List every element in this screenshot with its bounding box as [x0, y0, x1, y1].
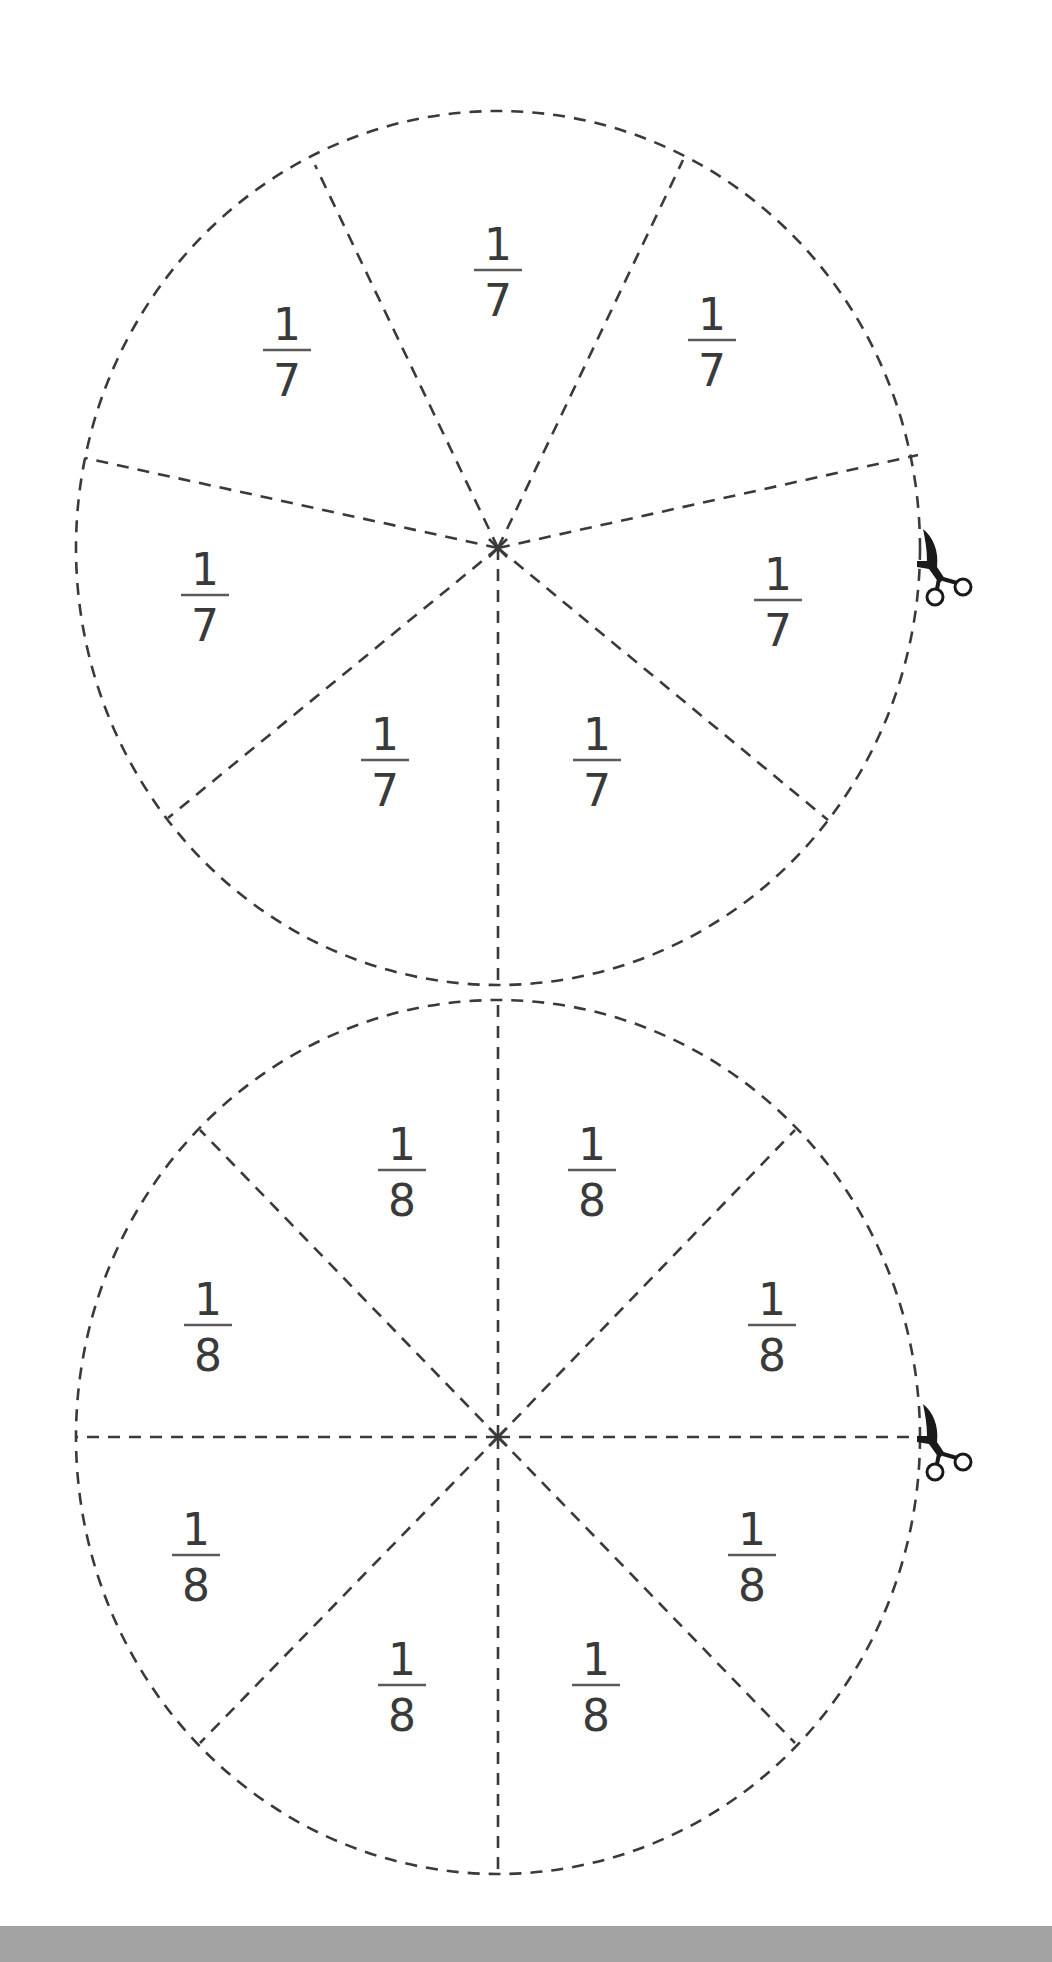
scissors-icon — [917, 529, 971, 605]
fold-line-spoke — [498, 160, 683, 548]
fold-line-spoke — [200, 1130, 498, 1437]
fraction-label: 18 — [184, 1274, 232, 1381]
fraction-label: 17 — [361, 709, 409, 816]
fraction-numerator: 1 — [758, 1274, 786, 1325]
fraction-numerator: 1 — [738, 1504, 766, 1555]
fraction-label: 18 — [748, 1274, 796, 1381]
fraction-label: 17 — [474, 219, 522, 326]
eighths-wheel: 1818181818181818 — [75, 1000, 971, 1875]
fold-line-spoke — [200, 1437, 498, 1743]
fraction-label: 18 — [568, 1119, 616, 1226]
fraction-numerator: 1 — [273, 299, 301, 350]
fraction-denominator: 7 — [371, 765, 399, 816]
fraction-numerator: 1 — [582, 1634, 610, 1685]
fraction-denominator: 8 — [194, 1330, 222, 1381]
fraction-label: 18 — [172, 1504, 220, 1611]
fraction-numerator: 1 — [388, 1119, 416, 1170]
fraction-denominator: 8 — [758, 1330, 786, 1381]
scissors-icon — [917, 1404, 971, 1480]
fraction-numerator: 1 — [698, 289, 726, 340]
fraction-denominator: 8 — [388, 1175, 416, 1226]
fraction-denominator: 7 — [191, 600, 219, 651]
fraction-numerator: 1 — [764, 549, 792, 600]
fraction-numerator: 1 — [388, 1634, 416, 1685]
fraction-numerator: 1 — [191, 544, 219, 595]
fraction-denominator: 8 — [582, 1690, 610, 1741]
fraction-denominator: 8 — [578, 1175, 606, 1226]
fraction-numerator: 1 — [371, 709, 399, 760]
fraction-label: 17 — [263, 299, 311, 406]
fraction-denominator: 7 — [484, 275, 512, 326]
fraction-denominator: 8 — [182, 1560, 210, 1611]
fraction-denominator: 8 — [738, 1560, 766, 1611]
fraction-label: 17 — [754, 549, 802, 656]
fraction-numerator: 1 — [182, 1504, 210, 1555]
fraction-numerator: 1 — [583, 709, 611, 760]
fraction-wheels-worksheet: 17171717171717 1818181818181818 — [0, 0, 1052, 1962]
fraction-denominator: 7 — [764, 605, 792, 656]
fraction-label: 18 — [572, 1634, 620, 1741]
fraction-label: 18 — [378, 1634, 426, 1741]
fraction-numerator: 1 — [578, 1119, 606, 1170]
fraction-numerator: 1 — [194, 1274, 222, 1325]
sevenths-wheel: 17171717171717 — [76, 111, 971, 988]
fraction-denominator: 7 — [698, 345, 726, 396]
fraction-denominator: 7 — [273, 355, 301, 406]
fraction-numerator: 1 — [484, 219, 512, 270]
fraction-label: 18 — [378, 1119, 426, 1226]
fraction-denominator: 8 — [388, 1690, 416, 1741]
footer-band — [0, 1926, 1052, 1962]
fold-line-spoke — [498, 1130, 795, 1437]
fraction-label: 17 — [573, 709, 621, 816]
fraction-denominator: 7 — [583, 765, 611, 816]
fold-line-spoke — [85, 458, 498, 548]
fraction-label: 17 — [688, 289, 736, 396]
fraction-label: 17 — [181, 544, 229, 651]
fold-line-spoke — [498, 455, 918, 548]
fraction-label: 18 — [728, 1504, 776, 1611]
fold-line-spoke — [315, 165, 498, 548]
